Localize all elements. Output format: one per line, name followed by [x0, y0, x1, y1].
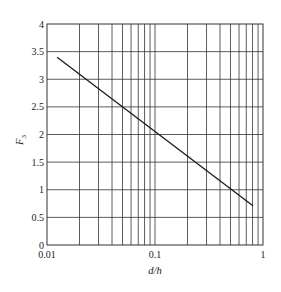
grid-lines — [47, 24, 263, 245]
y-axis-label-subscript: 3 — [20, 135, 28, 139]
y-axis-label: F3 — [14, 135, 28, 146]
x-tick-label: 0.1 — [149, 249, 162, 260]
y-tick-label: 4 — [39, 19, 44, 30]
y-tick-label: 3.5 — [32, 46, 45, 57]
y-tick-label: 3 — [39, 74, 44, 85]
y-tick-label: 2.5 — [32, 101, 45, 112]
x-axis-label: d/h — [148, 265, 161, 276]
x-axis-ticks: 0.010.11 — [38, 249, 265, 260]
y-tick-label: 1.5 — [32, 157, 45, 168]
x-tick-label: 1 — [261, 249, 266, 260]
y-tick-label: 0.5 — [32, 212, 45, 223]
y-tick-label: 1 — [39, 184, 44, 195]
chart: 00.511.522.533.54 0.010.11 F3 d/h — [0, 0, 281, 292]
y-tick-label: 2 — [39, 129, 44, 140]
x-tick-label: 0.01 — [38, 249, 56, 260]
y-axis-ticks: 00.511.522.533.54 — [32, 19, 45, 251]
